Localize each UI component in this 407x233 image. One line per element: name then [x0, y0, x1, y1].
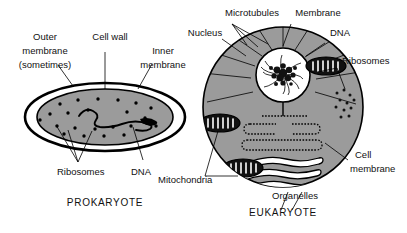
cell-comparison-diagram: Outer membrane (sometimes) Cell wall Inn… — [0, 0, 407, 233]
prokaryote-ribosomes-label: Ribosomes — [57, 166, 105, 177]
eukaryote-ribosomes-label: Ribosomes — [342, 55, 390, 66]
prokaryote-outer-membrane-label-line2: membrane — [22, 45, 67, 56]
eukaryote-membrane-label: Membrane — [295, 7, 340, 18]
eukaryote-organelles-label: Organelles — [272, 190, 318, 201]
eukaryote-cell — [200, 25, 363, 211]
prokaryote-cell — [25, 83, 185, 151]
prokaryote-inner-membrane-label-line1: Inner — [152, 45, 174, 56]
prokaryote-outer-membrane-label-line1: Outer — [33, 31, 57, 42]
diagram-canvas: Outer membrane (sometimes) Cell wall Inn… — [0, 0, 407, 233]
eukaryote-cell-membrane-label-line1: Cell — [355, 149, 371, 160]
prokaryote-outer-membrane-label-line3: (sometimes) — [19, 59, 71, 70]
prokaryote-inner-membrane-label-line2: membrane — [140, 59, 185, 70]
eukaryote-caption: EUKARYOTE — [249, 207, 317, 218]
eukaryote-mitochondrion-top-right — [306, 57, 346, 75]
prokaryote-caption: PROKARYOTE — [67, 197, 143, 208]
eukaryote-mitochondria-label: Mitochondria — [158, 174, 213, 185]
eukaryote-dna-label: DNA — [330, 27, 351, 38]
prokaryote-cell-wall-label: Cell wall — [92, 31, 127, 42]
prokaryote-dna-label: DNA — [131, 166, 152, 177]
eukaryote-mitochondrion-bottom-left — [223, 159, 263, 177]
eukaryote-nucleus-label: Nucleus — [188, 27, 223, 38]
eukaryote-microtubules-label: Microtubules — [225, 7, 279, 18]
eukaryote-cell-membrane-label-line2: membrane — [350, 163, 395, 174]
